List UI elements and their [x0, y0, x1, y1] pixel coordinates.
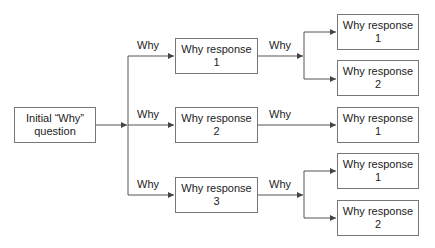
initial-why-question-box: Initial “Why” question — [14, 107, 96, 143]
why-label-response-3: Why — [269, 178, 291, 190]
why-response-1-box: Why response 1 — [175, 38, 258, 74]
why-response-3-box: Why response 3 — [175, 177, 258, 213]
sub-response-1-2-box: Why response 2 — [337, 60, 419, 96]
why-label-branch-1: Why — [137, 39, 159, 51]
sub-response-3-2-box: Why response 2 — [337, 200, 419, 236]
why-label-branch-2: Why — [137, 108, 159, 120]
sub-response-3-1-box: Why response 1 — [337, 153, 419, 189]
why-label-branch-3: Why — [137, 178, 159, 190]
sub-response-1-1-box: Why response 1 — [337, 14, 419, 50]
why-label-response-2: Why — [269, 108, 291, 120]
why-response-2-box: Why response 2 — [175, 107, 258, 143]
why-label-response-1: Why — [269, 39, 291, 51]
sub-response-2-1-box: Why response 1 — [337, 107, 419, 143]
